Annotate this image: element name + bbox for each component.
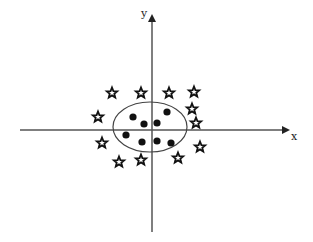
- dot-marker: [122, 131, 129, 138]
- star-marker: [93, 112, 103, 122]
- dot-marker: [153, 137, 160, 144]
- x-axis-label: x: [291, 130, 297, 143]
- star-marker: [191, 118, 201, 128]
- dot-marker: [140, 120, 147, 127]
- star-marker: [97, 138, 107, 148]
- scatter-diagram: [0, 0, 313, 242]
- dot-marker: [167, 139, 174, 146]
- star-marker: [195, 142, 205, 152]
- dot-marker: [163, 108, 170, 115]
- star-marker: [187, 104, 197, 114]
- dot-marker: [129, 113, 136, 120]
- star-marker: [173, 153, 183, 163]
- dot-marker: [153, 119, 160, 126]
- dot-marker: [138, 138, 145, 145]
- star-marker: [136, 88, 146, 98]
- y-axis-label: y: [141, 7, 147, 20]
- star-marker: [136, 155, 146, 165]
- boundary-ellipse: [113, 102, 187, 152]
- star-marker: [164, 88, 174, 98]
- outer-class-points: [93, 87, 205, 167]
- star-marker: [107, 88, 117, 98]
- star-marker: [189, 87, 199, 97]
- inner-class-points: [122, 108, 174, 146]
- star-marker: [114, 157, 124, 167]
- decision-boundary-ellipse: [113, 102, 187, 152]
